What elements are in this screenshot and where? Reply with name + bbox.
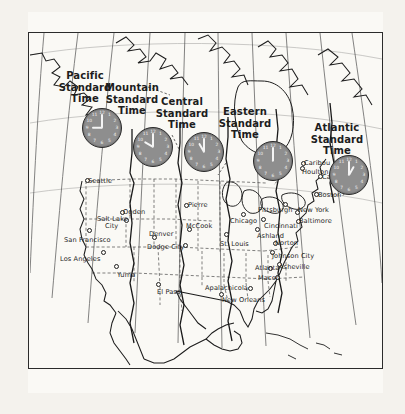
clock-numeral: 11 <box>339 160 345 164</box>
city-label: New Orleans <box>222 296 265 304</box>
clock-numeral: 5 <box>159 158 162 162</box>
clock-numeral: 6 <box>101 141 104 145</box>
city-label: Asheville <box>279 263 310 271</box>
clock-numeral: 7 <box>195 163 198 167</box>
clock-numeral: 3 <box>362 173 365 177</box>
clock-atlantic: 123456789101112 <box>329 155 369 195</box>
city-label: Dodge City <box>147 243 185 251</box>
clock-numeral: 11 <box>92 113 98 117</box>
clock-numeral: 1 <box>108 113 111 117</box>
city-label: Baltimore <box>299 217 332 225</box>
clock-numeral: 5 <box>108 139 111 143</box>
clock-numeral: 6 <box>152 160 155 164</box>
clock-numeral: 9 <box>137 145 140 149</box>
clock-numeral: 11 <box>143 132 149 136</box>
clock-numeral: 2 <box>164 137 167 141</box>
clock-pacific: 123456789101112 <box>82 108 122 148</box>
city-label: Pierre <box>188 201 208 209</box>
state-boundaries <box>84 179 304 311</box>
clock-numeral: 8 <box>88 133 91 137</box>
city-label: Cincinnati <box>264 222 298 230</box>
clock-numeral: 11 <box>194 137 200 141</box>
clock-numeral: 3 <box>217 150 220 154</box>
city-label: Caribou <box>304 159 330 167</box>
clock-numeral: 6 <box>203 165 206 169</box>
time-zone-map: 150°130°120°105°90°75°60°45° 120°105°90°… <box>0 0 405 414</box>
clock-numeral: 3 <box>115 126 118 130</box>
clock-numeral: 9 <box>86 126 89 130</box>
clock-numeral: 3 <box>166 145 169 149</box>
clock-numeral: 9 <box>257 159 260 163</box>
timezone-label-eastern: Eastern Standard Time <box>211 106 279 141</box>
clock-numeral: 7 <box>340 186 343 190</box>
clock-numeral: 7 <box>264 172 267 176</box>
city-label: McCook <box>186 222 212 230</box>
clock-numeral: 7 <box>93 139 96 143</box>
clock-numeral: 10 <box>333 165 339 169</box>
clock-numeral: 5 <box>210 163 213 167</box>
city-label: City <box>105 222 118 230</box>
clock-numeral: 2 <box>284 151 287 155</box>
clock-numeral: 10 <box>86 118 92 122</box>
clock-numeral: 2 <box>113 118 116 122</box>
clock-numeral: 7 <box>144 158 147 162</box>
clock-numeral: 4 <box>360 180 363 184</box>
clock-numeral: 11 <box>263 146 269 150</box>
clock-numeral: 10 <box>137 137 143 141</box>
clock-numeral: 8 <box>190 157 193 161</box>
clock-numeral: 9 <box>188 150 191 154</box>
longitude-band-bottom <box>28 368 383 393</box>
clock-center-pin <box>152 146 154 148</box>
timezone-label-atlantic: Atlantic Standard Time <box>303 122 371 157</box>
city-label: Pittsburgh <box>258 206 293 214</box>
clock-numeral: 8 <box>139 152 142 156</box>
clock-eastern: 123456789101112 <box>253 141 293 181</box>
clock-mountain: 123456789101112 <box>133 127 173 167</box>
city-label: New York <box>298 206 329 214</box>
clock-central: 123456789101112 <box>184 132 224 172</box>
clock-center-pin <box>101 127 103 129</box>
city-label: Denver <box>149 230 174 238</box>
city-label: Houlton <box>302 168 329 176</box>
clock-numeral: 10 <box>188 142 194 146</box>
city-label: St. Louis <box>220 240 249 248</box>
clock-numeral: 5 <box>279 172 282 176</box>
city-label: Macon <box>258 274 280 282</box>
city-label: Atlanta <box>255 264 279 272</box>
clock-numeral: 1 <box>279 146 282 150</box>
clock-numeral: 2 <box>360 165 363 169</box>
city-label: Los Angeles <box>60 255 100 263</box>
city-label: Seattle <box>88 177 112 185</box>
clock-numeral: 6 <box>272 174 275 178</box>
clock-numeral: 8 <box>335 180 338 184</box>
clock-numeral: 2 <box>215 142 218 146</box>
city-label: Johnson City <box>272 252 314 260</box>
clock-numeral: 4 <box>113 133 116 137</box>
city-label: Norton <box>275 239 298 247</box>
clock-numeral: 10 <box>257 151 263 155</box>
clock-numeral: 3 <box>286 159 289 163</box>
longitude-band-top <box>28 12 383 33</box>
clock-numeral: 4 <box>164 152 167 156</box>
timezone-label-central: Central Standard Time <box>148 96 216 131</box>
city-label: Yuma <box>117 271 135 279</box>
city-label: San Francisco <box>64 236 111 244</box>
clock-numeral: 8 <box>259 166 262 170</box>
clock-numeral: 4 <box>284 166 287 170</box>
clock-numeral: 6 <box>348 188 351 192</box>
clock-numeral: 9 <box>333 173 336 177</box>
clock-numeral: 4 <box>215 157 218 161</box>
clock-numeral: 1 <box>210 137 213 141</box>
clock-numeral: 5 <box>355 186 358 190</box>
clock-numeral: 1 <box>159 132 162 136</box>
city-label: Apalachicola <box>205 284 248 292</box>
city-label: Chicago <box>230 217 257 225</box>
caribbean-islands <box>266 333 342 359</box>
clock-numeral: 1 <box>355 160 358 164</box>
city-label: El Paso <box>157 288 181 296</box>
